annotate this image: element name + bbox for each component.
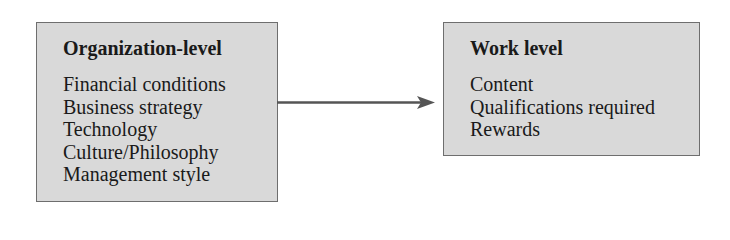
list-item: Financial conditions bbox=[63, 73, 226, 96]
list-item: Content bbox=[470, 73, 655, 96]
list-item: Qualifications required bbox=[470, 96, 655, 119]
organization-level-box: Organization-level Financial conditions … bbox=[36, 22, 278, 202]
work-level-box: Work level Content Qualifications requir… bbox=[443, 22, 700, 156]
list-item: Rewards bbox=[470, 118, 655, 141]
organization-level-title: Organization-level bbox=[63, 37, 222, 59]
list-item: Culture/Philosophy bbox=[63, 141, 226, 164]
arrow-right-icon bbox=[277, 95, 437, 111]
organization-level-items: Financial conditions Business strategy T… bbox=[63, 73, 226, 186]
work-level-items: Content Qualifications required Rewards bbox=[470, 73, 655, 141]
list-item: Business strategy bbox=[63, 96, 226, 119]
list-item: Technology bbox=[63, 118, 226, 141]
work-level-title: Work level bbox=[470, 37, 563, 59]
list-item: Management style bbox=[63, 163, 226, 186]
